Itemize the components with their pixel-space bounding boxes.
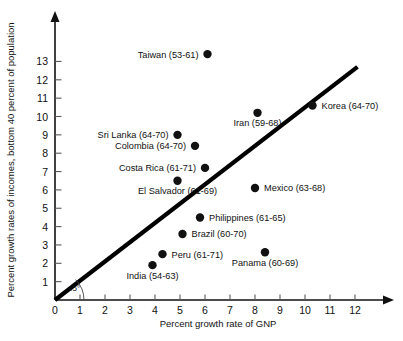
x-tick-label: 10	[299, 304, 311, 316]
data-point: Brazil (60-70)	[178, 229, 246, 239]
x-tick-label: 5	[177, 304, 183, 316]
x-tick-label: 12	[349, 304, 361, 316]
data-point-label: El Salvador (61-69)	[138, 186, 217, 196]
x-tick-label: 6	[202, 304, 208, 316]
data-point-label: India (54-63)	[126, 271, 178, 281]
data-point-marker	[251, 184, 259, 192]
data-point-marker	[148, 261, 156, 269]
y-tick-label: 12	[36, 74, 48, 86]
x-tick-label: 11	[325, 304, 336, 316]
data-point-marker	[203, 50, 211, 58]
y-tick-label: 9	[42, 129, 48, 141]
x-tick-label: 8	[252, 304, 258, 316]
data-point-marker	[158, 250, 166, 258]
data-point-label: Philippines (61-65)	[209, 213, 286, 223]
y-tick-label: 2	[42, 257, 48, 269]
y-tick-label: 11	[37, 92, 48, 104]
data-point-marker	[178, 230, 186, 238]
y-tick-label: 6	[42, 184, 48, 196]
data-point: Sri Lanka (64-70)	[98, 130, 182, 140]
data-point: Korea (64-70)	[308, 101, 378, 111]
data-point: Taiwan (53-61)	[138, 50, 212, 60]
x-axis-arrowhead	[383, 296, 394, 305]
data-point-label: Brazil (60-70)	[192, 229, 247, 239]
y-axis-arrowhead	[51, 11, 60, 22]
x-axis-ticks: 0123456789101112	[52, 295, 361, 317]
data-point-label: Iran (59-68)	[233, 118, 281, 128]
y-axis-title: Percent growth rates of incomes, bottom …	[5, 22, 16, 297]
x-tick-label: 4	[152, 304, 158, 316]
x-tick-label: 9	[277, 304, 283, 316]
chart-canvas: 0123456789101112 12345678910111213 45° T…	[0, 0, 403, 341]
y-tick-label: 10	[36, 111, 48, 123]
y-tick-label: 7	[42, 166, 48, 178]
data-point-marker	[308, 101, 316, 109]
data-point-marker	[191, 142, 199, 150]
data-point-label: Sri Lanka (64-70)	[98, 130, 169, 140]
data-point-marker	[173, 177, 181, 185]
data-point-label: Colombia (64-70)	[115, 141, 186, 151]
y-tick-label: 4	[42, 221, 48, 233]
angle-annotation-label: 45°	[68, 284, 80, 293]
data-point-label: Costa Rica (61-71)	[119, 163, 196, 173]
data-point-marker	[196, 213, 204, 221]
data-point: Panama (60-69)	[232, 248, 298, 268]
data-point-label: Panama (60-69)	[232, 258, 298, 268]
data-point: Colombia (64-70)	[115, 141, 199, 151]
scatter-chart: 0123456789101112 12345678910111213 45° T…	[0, 0, 403, 341]
data-point-marker	[253, 109, 261, 117]
data-point-label: Taiwan (53-61)	[138, 50, 199, 60]
data-point-marker	[201, 164, 209, 172]
data-point-label: Mexico (63-68)	[264, 183, 325, 193]
x-tick-label: 3	[127, 304, 133, 316]
data-point: Peru (61-71)	[158, 250, 223, 260]
data-point: Costa Rica (61-71)	[119, 163, 209, 173]
data-point-marker	[261, 248, 269, 256]
x-tick-label: 7	[227, 304, 233, 316]
y-tick-label: 8	[42, 147, 48, 159]
y-tick-label: 1	[42, 276, 48, 288]
x-axis-title: Percent growth rate of GNP	[160, 318, 277, 329]
y-tick-label: 5	[42, 202, 48, 214]
x-tick-label: 2	[102, 304, 108, 316]
x-tick-label: 0	[52, 304, 58, 316]
data-point-marker	[173, 131, 181, 139]
y-tick-label: 3	[42, 239, 48, 251]
data-point: El Salvador (61-69)	[138, 177, 217, 197]
y-tick-label: 13	[36, 55, 48, 67]
data-point: Philippines (61-65)	[196, 213, 286, 223]
data-point: Mexico (63-68)	[251, 183, 325, 193]
data-point: India (54-63)	[126, 261, 178, 281]
y-axis-ticks: 12345678910111213	[36, 55, 61, 287]
axes-group	[51, 11, 395, 305]
data-point-label: Korea (64-70)	[322, 101, 379, 111]
data-point: Iran (59-68)	[233, 109, 281, 129]
data-point-label: Peru (61-71)	[172, 250, 224, 260]
x-tick-label: 1	[77, 304, 83, 316]
